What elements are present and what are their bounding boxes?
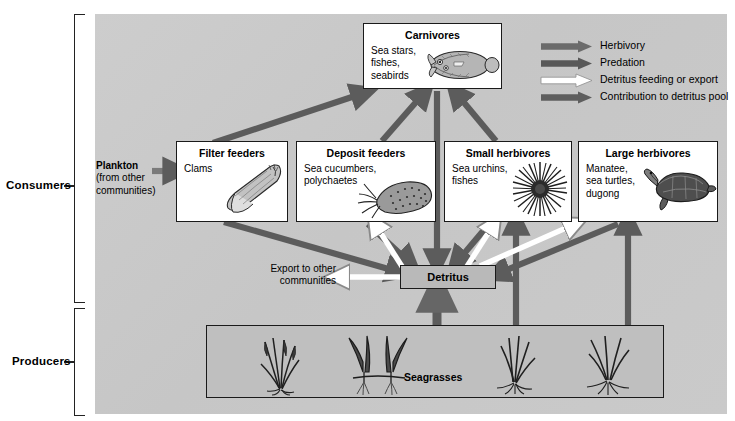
legend-label-detritus-feeding: Detritus feeding or export xyxy=(600,73,718,85)
box-filter-feeders[interactable]: Filter feeders Clams xyxy=(176,141,288,222)
box-deposit-feeders[interactable]: Deposit feeders Sea cucumbers, polychaet… xyxy=(296,141,436,222)
seagrasses-label: Seagrasses xyxy=(404,371,462,383)
clam-icon xyxy=(221,160,287,220)
box-carnivores-title: Carnivores xyxy=(364,29,501,41)
sea-urchin-icon xyxy=(511,160,569,218)
box-carnivores-body: Sea stars, fishes, seabirds xyxy=(371,45,416,82)
plankton-label-rest: (from other communities) xyxy=(96,172,155,195)
flatfish-icon xyxy=(424,44,500,86)
legend-label-predation: Predation xyxy=(600,56,645,68)
legend-label-herbivory: Herbivory xyxy=(600,39,645,51)
producers-label: Producers xyxy=(12,355,71,367)
consumers-label: Consumers xyxy=(6,179,71,191)
producers-bracket xyxy=(74,308,85,416)
box-small-herbivores[interactable]: Small herbivores Sea urchins, fishes xyxy=(444,141,572,222)
box-large-herbivores[interactable]: Large herbivores Manatee, sea turtles, d… xyxy=(578,141,718,222)
box-filter-feeders-body: Clams xyxy=(184,163,212,175)
detritus-box[interactable]: Detritus xyxy=(400,265,496,289)
box-large-herbivores-body: Manatee, sea turtles, dugong xyxy=(586,163,635,200)
seagrass-art-1 xyxy=(247,334,317,396)
box-small-herbivores-body: Sea urchins, fishes xyxy=(452,163,508,188)
seagrass-art-2 xyxy=(337,332,423,396)
legend-arrow-detritus-feeding-icon xyxy=(540,73,594,88)
legend-label-detritus-pool: Contribution to detritus pool xyxy=(600,90,728,102)
seagrass-art-4 xyxy=(577,332,643,396)
legend-arrow-detritus-pool-icon xyxy=(540,90,594,105)
seagrasses-box[interactable] xyxy=(206,325,664,398)
consumers-bracket xyxy=(74,14,85,303)
plankton-label-bold: Plankton xyxy=(96,160,138,171)
box-carnivores[interactable]: Carnivores Sea stars, fishes, seabirds xyxy=(363,23,502,89)
plankton-label: Plankton (from other communities) xyxy=(96,160,155,197)
legend-arrow-predation-icon xyxy=(540,56,594,71)
sea-turtle-icon xyxy=(639,158,717,216)
export-label: Export to other communities xyxy=(258,263,336,288)
box-filter-feeders-title: Filter feeders xyxy=(177,147,287,159)
seagrass-art-3 xyxy=(485,332,551,396)
box-small-herbivores-title: Small herbivores xyxy=(445,147,571,159)
legend-arrow-herbivory-icon xyxy=(540,39,594,54)
box-deposit-feeders-title: Deposit feeders xyxy=(297,147,435,159)
sea-cucumber-icon xyxy=(355,170,437,220)
